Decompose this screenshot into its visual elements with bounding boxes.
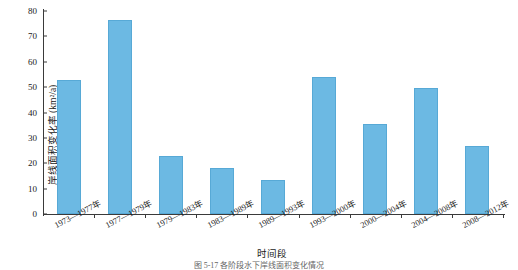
y-tick-label: 0 xyxy=(0,210,43,219)
bar xyxy=(108,20,132,214)
y-tick-label: 80 xyxy=(0,7,43,16)
x-tick-mark xyxy=(196,214,197,218)
x-tick-mark xyxy=(145,214,146,218)
figure-bar-chart: 岸线面积变化率 (km²/a) 01020304050607080 1973—1… xyxy=(0,0,518,270)
bar xyxy=(414,88,438,214)
x-tick-mark xyxy=(503,214,504,218)
y-tick-label: 30 xyxy=(0,133,43,142)
bar xyxy=(159,156,183,214)
x-tick-mark xyxy=(401,214,402,218)
bar xyxy=(57,80,81,214)
x-tick-mark xyxy=(350,214,351,218)
x-tick-mark xyxy=(299,214,300,218)
plot-area xyxy=(43,11,503,214)
bar xyxy=(465,146,489,215)
y-tick-label: 50 xyxy=(0,83,43,92)
bar xyxy=(312,77,336,214)
bar xyxy=(363,124,387,214)
y-tick-label: 10 xyxy=(0,184,43,193)
x-tick-mark xyxy=(94,214,95,218)
figure-caption: 图 5-17 各阶段水下岸线面积变化情况 xyxy=(0,259,518,270)
x-axis-title: 时间段 xyxy=(257,246,287,260)
y-tick-label: 20 xyxy=(0,159,43,168)
y-tick-label: 60 xyxy=(0,57,43,66)
x-tick-mark xyxy=(247,214,248,218)
y-tick-label: 70 xyxy=(0,32,43,41)
y-tick-label: 40 xyxy=(0,108,43,117)
x-tick-mark xyxy=(452,214,453,218)
